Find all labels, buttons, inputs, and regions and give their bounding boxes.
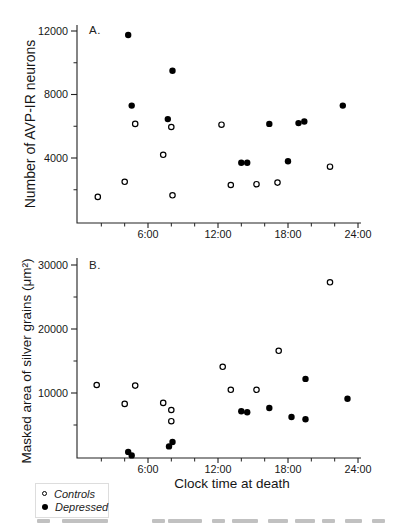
data-point-controls <box>220 364 225 369</box>
legend-item-controls: Controls <box>42 487 102 500</box>
data-point-controls <box>169 407 174 412</box>
data-point-controls <box>219 122 224 127</box>
panel-a: 40008000120006:0012:0018:0024:00 <box>38 25 372 240</box>
series-controls <box>95 121 333 199</box>
data-point-controls <box>170 193 175 198</box>
y-tick-label: 8000 <box>44 88 68 100</box>
caption-smudge <box>232 519 258 523</box>
data-point-controls <box>276 348 281 353</box>
data-point-controls <box>122 179 127 184</box>
data-point-controls <box>327 280 332 285</box>
caption-smudge <box>268 519 288 523</box>
legend-item-depressed: Depressed <box>42 500 102 513</box>
legend: Controls Depressed <box>35 483 109 518</box>
data-point-depressed <box>301 118 307 124</box>
data-point-controls <box>254 182 259 187</box>
axes <box>77 258 361 458</box>
open-circle-icon <box>42 491 47 496</box>
y-tick-label: 30000 <box>38 259 68 271</box>
data-point-depressed <box>266 121 272 127</box>
x-tick-label: 6:00 <box>137 228 158 240</box>
data-point-controls <box>133 383 138 388</box>
data-point-depressed <box>302 416 308 422</box>
panel-a-letter: A. <box>89 24 101 36</box>
caption-smudge <box>152 519 165 523</box>
x-tick-label: 6:00 <box>137 463 158 475</box>
legend-label-depressed: Depressed <box>55 501 108 513</box>
y-tick-label: 20000 <box>38 323 68 335</box>
data-point-depressed <box>238 408 244 414</box>
x-tick-label: 18:00 <box>274 228 301 240</box>
series-depressed <box>125 32 346 166</box>
scatter-plots-canvas: 40008000120006:0012:0018:0024:0010000200… <box>0 0 396 527</box>
y-tick-label: 10000 <box>38 387 68 399</box>
x-axis-title: Clock time at death <box>174 476 290 491</box>
data-point-depressed <box>129 452 135 458</box>
data-point-controls <box>228 182 233 187</box>
legend-label-controls: Controls <box>54 488 95 500</box>
caption-smudge <box>37 519 50 523</box>
caption-smudge <box>322 519 335 523</box>
data-point-controls <box>228 387 233 392</box>
data-point-depressed <box>244 409 250 415</box>
data-point-depressed <box>295 120 301 126</box>
caption-smudge <box>372 519 385 523</box>
data-point-depressed <box>344 396 350 402</box>
filled-circle-icon <box>42 504 48 510</box>
caption-smudge <box>212 519 225 523</box>
caption-smudge <box>295 519 315 523</box>
data-point-controls <box>275 180 280 185</box>
data-point-controls <box>327 164 332 169</box>
series-controls <box>94 280 333 424</box>
data-point-controls <box>122 401 127 406</box>
data-point-controls <box>169 419 174 424</box>
x-tick-label: 24:00 <box>344 228 371 240</box>
data-point-depressed <box>340 102 346 108</box>
panel-b-letter: B. <box>89 259 101 271</box>
data-point-depressed <box>129 102 135 108</box>
figure: 40008000120006:0012:0018:0024:0010000200… <box>0 0 396 527</box>
data-point-controls <box>95 194 100 199</box>
data-point-controls <box>133 121 138 126</box>
data-point-depressed <box>285 158 291 164</box>
data-point-depressed <box>165 116 171 122</box>
x-tick-label: 24:00 <box>344 463 371 475</box>
caption-smudge <box>345 519 362 523</box>
data-point-depressed <box>266 405 272 411</box>
data-point-depressed <box>302 376 308 382</box>
cropped-caption-fragment <box>0 517 396 527</box>
y-tick-label: 4000 <box>44 152 68 164</box>
data-point-controls <box>161 400 166 405</box>
data-point-controls <box>169 124 174 129</box>
panel-a-y-axis-title: Number of AVP-IR neurons <box>22 40 38 209</box>
caption-smudge <box>168 519 202 523</box>
series-depressed <box>125 376 351 459</box>
x-tick-label: 12:00 <box>204 228 231 240</box>
data-point-controls <box>254 387 259 392</box>
caption-smudge <box>62 519 108 523</box>
data-point-depressed <box>125 32 131 38</box>
data-point-controls <box>161 152 166 157</box>
data-point-depressed <box>244 160 250 166</box>
data-point-controls <box>94 382 99 387</box>
data-point-depressed <box>238 160 244 166</box>
x-tick-label: 12:00 <box>204 463 231 475</box>
x-tick-label: 18:00 <box>274 463 301 475</box>
data-point-depressed <box>169 68 175 74</box>
data-point-depressed <box>169 439 175 445</box>
panel-b: 1000020000300006:0012:0018:0024:00 <box>38 258 372 475</box>
y-tick-label: 12000 <box>38 25 68 37</box>
panel-b-y-axis-title: Masked area of silver grains (μm²) <box>19 258 34 463</box>
data-point-depressed <box>288 414 294 420</box>
